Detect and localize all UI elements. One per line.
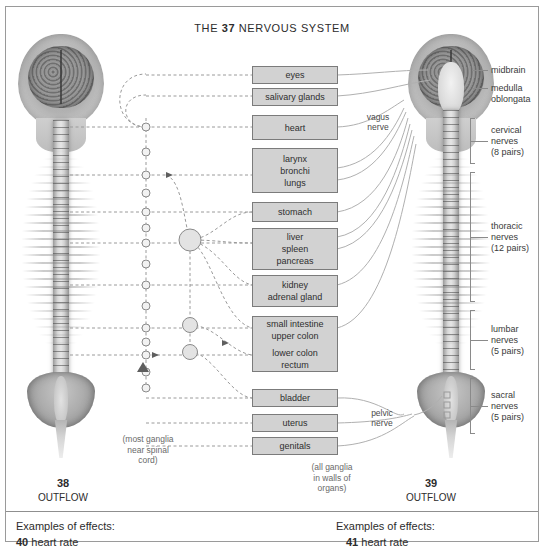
- outflow-number: 39: [425, 477, 437, 489]
- label-line: (5 pairs): [491, 412, 524, 423]
- effects-number: 40: [16, 536, 28, 548]
- organ-label: kidney: [282, 279, 308, 291]
- right-effects-block: Examples of effects: 41 heart rate: [336, 518, 435, 548]
- label-medulla-oblongata: medulla oblongata: [491, 83, 531, 105]
- effects-entry: 41 heart rate: [336, 534, 435, 548]
- organ-label: heart: [285, 122, 306, 134]
- label-lumbar-nerves: lumbar nerves (5 pairs): [491, 324, 524, 357]
- organ-label: stomach: [278, 206, 312, 218]
- organ-box-heart[interactable]: heart: [252, 115, 338, 140]
- label-line: sacral: [491, 390, 524, 401]
- ribs-texture-right: [412, 150, 490, 350]
- organ-box-liver-spleen-pancreas[interactable]: liver spleen pancreas: [252, 228, 338, 270]
- leader-line-midbrain: [472, 70, 488, 71]
- label-vagus-nerve: vagus nerve: [358, 112, 398, 132]
- organ-label: lower colon: [272, 347, 318, 359]
- label-line: nerve: [362, 418, 402, 428]
- label-line: cervical: [491, 125, 524, 136]
- organ-label: rectum: [281, 359, 309, 371]
- outflow-label: OUTFLOW: [16, 491, 110, 505]
- effects-text: heart rate: [358, 536, 408, 548]
- note-line: near spinal: [98, 445, 198, 456]
- label-line: oblongata: [491, 94, 531, 105]
- label-line: nerve: [358, 122, 398, 132]
- label-line: midbrain: [491, 65, 526, 76]
- effects-text: heart rate: [28, 536, 78, 548]
- leader-line-sacral: [470, 406, 488, 407]
- left-effects-block: Examples of effects: 40 heart rate: [16, 518, 115, 548]
- note-line: (all ganglia: [294, 462, 370, 473]
- label-pelvic-nerve: pelvic nerve: [362, 408, 402, 428]
- label-line: thoracic: [491, 221, 529, 232]
- organ-box-larynx-bronchi-lungs[interactable]: larynx bronchi lungs: [252, 148, 338, 193]
- leader-line-thoracic: [470, 237, 488, 238]
- label-line: lumbar: [491, 324, 524, 335]
- organ-box-genitals[interactable]: genitals: [252, 437, 338, 455]
- section-divider: [6, 511, 538, 512]
- effects-heading: Examples of effects:: [336, 518, 435, 534]
- label-line: nerves: [491, 335, 524, 346]
- leader-line-cervical: [470, 141, 488, 142]
- organ-label: eyes: [285, 69, 304, 81]
- note-line: (most ganglia: [98, 434, 198, 445]
- effects-entry: 40 heart rate: [16, 534, 115, 548]
- organ-label: adrenal gland: [268, 291, 323, 303]
- nervous-system-diagram: THE 37 NERVOUS SYSTEM: [0, 0, 544, 548]
- organ-label: lungs: [284, 177, 306, 189]
- label-thoracic-nerves: thoracic nerves (12 pairs): [491, 221, 529, 254]
- brain-illustration-left: [28, 46, 94, 108]
- head-illustration-left: [18, 34, 104, 126]
- effects-heading: Examples of effects:: [16, 518, 115, 534]
- title-prefix: THE: [194, 22, 221, 34]
- title-suffix: NERVOUS SYSTEM: [235, 22, 350, 34]
- organ-box-stomach[interactable]: stomach: [252, 202, 338, 222]
- page-title: THE 37 NERVOUS SYSTEM: [0, 22, 544, 34]
- organ-label: larynx: [283, 153, 307, 165]
- organ-label: spleen: [282, 243, 309, 255]
- label-line: (8 pairs): [491, 147, 524, 158]
- label-line: pelvic: [362, 408, 402, 418]
- title-number: 37: [222, 22, 235, 34]
- label-line: vagus: [358, 112, 398, 122]
- leader-line-lumbar: [470, 340, 488, 341]
- organ-label: small intestine: [266, 318, 323, 330]
- note-line: in walls of: [294, 473, 370, 484]
- label-sacral-nerves: sacral nerves (5 pairs): [491, 390, 524, 423]
- note-line: cord): [98, 455, 198, 466]
- organ-box-intestine-colon-rectum[interactable]: small intestine upper colon lower colon …: [252, 316, 338, 372]
- organ-box-bladder[interactable]: bladder: [252, 389, 338, 407]
- caption-left-outflow: 38 OUTFLOW: [16, 476, 110, 505]
- label-line: nerves: [491, 401, 524, 412]
- label-line: (5 pairs): [491, 346, 524, 357]
- note-sympathetic-ganglia: (most ganglia near spinal cord): [98, 434, 198, 466]
- organ-label: pancreas: [276, 255, 313, 267]
- organ-box-kidney-adrenal-gland[interactable]: kidney adrenal gland: [252, 275, 338, 307]
- organ-label: upper colon: [271, 330, 318, 342]
- brainstem-highlight: [438, 62, 464, 114]
- note-parasympathetic-ganglia: (all ganglia in walls of organs): [294, 462, 370, 494]
- organ-label: salivary glands: [265, 91, 325, 103]
- organ-label: genitals: [279, 440, 310, 452]
- note-line: organs): [294, 483, 370, 494]
- organ-label: bladder: [280, 392, 310, 404]
- organ-label: liver: [287, 231, 304, 243]
- leader-line-medulla: [472, 88, 488, 89]
- outflow-number: 38: [57, 477, 69, 489]
- label-midbrain: midbrain: [491, 65, 526, 76]
- caption-right-outflow: 39 OUTFLOW: [384, 476, 478, 505]
- label-line: (12 pairs): [491, 243, 529, 254]
- organ-box-eyes[interactable]: eyes: [252, 66, 338, 84]
- ribs-texture-left: [22, 150, 100, 350]
- label-line: nerves: [491, 136, 524, 147]
- organ-label: uterus: [282, 417, 307, 429]
- outflow-label: OUTFLOW: [384, 491, 478, 505]
- organ-box-salivary-glands[interactable]: salivary glands: [252, 88, 338, 106]
- effects-number: 41: [346, 536, 358, 548]
- organ-box-uterus[interactable]: uterus: [252, 414, 338, 432]
- organ-label: bronchi: [280, 165, 310, 177]
- label-line: nerves: [491, 232, 529, 243]
- label-cervical-nerves: cervical nerves (8 pairs): [491, 125, 524, 158]
- label-line: medulla: [491, 83, 531, 94]
